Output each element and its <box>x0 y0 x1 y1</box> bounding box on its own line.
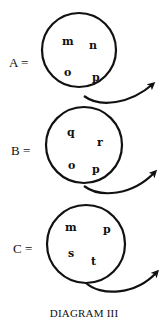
set-a-element: n <box>89 40 97 51</box>
set-a-element: o <box>64 67 71 78</box>
set-c-element: p <box>103 224 111 235</box>
curved-arrow-icon <box>84 84 153 103</box>
set-b-shape <box>46 107 155 193</box>
set-b-element: r <box>97 137 103 148</box>
set-c-circle <box>47 205 125 283</box>
set-b-element: p <box>92 164 100 175</box>
set-a-element: m <box>62 36 74 47</box>
set-c-shape <box>47 205 157 292</box>
set-a-label: A = <box>9 55 28 71</box>
set-c-element: s <box>68 248 74 259</box>
set-a-element: p <box>92 72 100 83</box>
set-a-circle <box>42 13 116 87</box>
set-c-element: m <box>65 222 77 233</box>
set-b-element: q <box>67 127 75 138</box>
set-b-element: o <box>68 160 75 171</box>
set-c-element: t <box>91 256 96 267</box>
set-b-label: B = <box>11 143 30 159</box>
set-b-circle <box>46 107 122 183</box>
set-c-label: C = <box>13 241 32 257</box>
set-a-shape <box>42 13 153 103</box>
diagram-caption: DIAGRAM III <box>0 307 168 319</box>
diagram-canvas <box>0 0 168 327</box>
